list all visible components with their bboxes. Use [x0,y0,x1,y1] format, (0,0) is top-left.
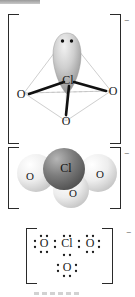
atom-label-cl: Cl [62,73,74,87]
atom-label-o-left: O [17,87,26,101]
sphere-label-o-bottom: O [69,187,77,199]
lewis-atom-o-bottom: O [63,260,72,274]
sphere-label-o-left: O [26,170,34,182]
bottom-edge-artifact [34,292,80,295]
atom-label-o-bottom: O [62,114,71,128]
sphere-label-cl: Cl [60,161,72,175]
panel-ball-and-stick-model: − [0,14,135,144]
lewis-atom-cl: Cl [61,236,73,250]
lone-pair-dot [70,39,73,42]
top-edge-artifact [0,0,40,4]
lone-pair-dot [61,39,64,42]
atom-label-o-right: O [109,84,118,98]
lewis-atom-o-left: O [40,236,49,250]
panel-lewis-structure: − O Cl O O [0,228,135,284]
lewis-atom-o-right: O [86,236,95,250]
sphere-label-o-right: O [96,168,104,180]
panel-space-filling-model: − O O O [0,147,135,209]
